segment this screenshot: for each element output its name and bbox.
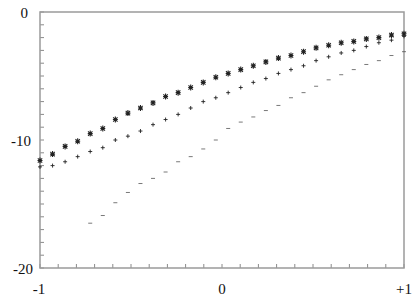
asterisk-marker [50, 151, 55, 157]
plus-marker [189, 106, 193, 110]
asterisk-marker [263, 59, 268, 65]
asterisk-marker [100, 125, 105, 131]
plus-marker [51, 164, 55, 168]
plus-marker [151, 123, 155, 127]
plus-marker [239, 86, 243, 90]
plus-marker [327, 55, 331, 59]
y-tick-label-neg10: -10 [11, 133, 31, 149]
series-plus [38, 34, 406, 169]
asterisk-marker [63, 143, 68, 149]
asterisk-marker [213, 74, 218, 80]
x-tick-label-neg1: -1 [33, 281, 46, 297]
plus-marker [339, 51, 343, 55]
plus-marker [214, 96, 218, 100]
plus-marker [101, 146, 105, 150]
asterisk-marker [138, 105, 143, 111]
plus-marker [276, 71, 280, 75]
x-tick-label-pos1: +1 [396, 281, 412, 297]
plus-marker [302, 64, 306, 68]
asterisk-marker [88, 131, 93, 137]
asterisk-marker [376, 35, 381, 41]
axis-ticks [40, 12, 404, 268]
series-dash [88, 52, 406, 224]
asterisk-marker [251, 63, 256, 69]
x-tick-label-0: 0 [218, 281, 226, 297]
series-asterisk [38, 31, 407, 164]
asterisk-marker [276, 55, 281, 61]
asterisk-marker [163, 93, 168, 99]
asterisk-marker [389, 32, 394, 38]
asterisk-marker [339, 40, 344, 46]
plot-frame [40, 12, 404, 268]
asterisk-marker [176, 90, 181, 96]
plus-marker [314, 59, 318, 63]
asterisk-marker [364, 36, 369, 42]
plus-marker [63, 160, 67, 164]
y-tick-label-neg20: -20 [13, 261, 33, 277]
plus-marker [138, 129, 142, 133]
asterisk-marker [238, 67, 243, 73]
plus-marker [76, 155, 80, 159]
asterisk-marker [201, 79, 206, 85]
asterisk-marker [288, 53, 293, 59]
plus-marker [176, 112, 180, 116]
y-tick-label-0: 0 [21, 5, 29, 21]
asterisk-marker [314, 45, 319, 51]
plus-marker [113, 138, 117, 142]
plus-marker [201, 100, 205, 104]
plus-marker [389, 38, 393, 42]
plus-marker [364, 45, 368, 49]
data-points [38, 31, 407, 223]
asterisk-marker [38, 157, 43, 163]
asterisk-marker [351, 38, 356, 44]
asterisk-marker [113, 117, 118, 123]
asterisk-marker [151, 100, 156, 106]
asterisk-marker [188, 85, 193, 91]
plus-marker [352, 48, 356, 52]
asterisk-marker [226, 70, 231, 76]
plus-marker [377, 41, 381, 45]
plus-marker [289, 68, 293, 72]
plus-marker [88, 150, 92, 154]
asterisk-marker [326, 42, 331, 48]
asterisk-marker [75, 138, 80, 144]
asterisk-marker [125, 110, 130, 116]
asterisk-marker [301, 49, 306, 55]
plus-marker [126, 134, 130, 138]
plus-marker [251, 80, 255, 84]
scatter-chart: 0 -10 -20 -1 0 +1 [0, 0, 420, 306]
plus-marker [226, 91, 230, 95]
plus-marker [164, 118, 168, 122]
plus-marker [264, 77, 268, 81]
